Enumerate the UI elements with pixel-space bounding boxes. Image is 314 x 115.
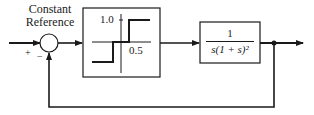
plus-sign: + [25, 47, 31, 58]
dead-zone-label: 0.5 [129, 44, 143, 56]
minus-sign: − [37, 51, 43, 62]
tf-fraction-bar [206, 41, 254, 42]
reference-label: Constant Reference [22, 3, 78, 29]
reference-label-line2: Reference [22, 16, 78, 29]
plant-transfer-function: 1 s(1 + s)² [203, 27, 257, 56]
summing-junction [40, 34, 58, 52]
tf-denominator: s(1 + s)² [203, 43, 257, 56]
upper-level-label: 1.0 [100, 13, 114, 25]
tf-numerator: 1 [203, 27, 257, 40]
